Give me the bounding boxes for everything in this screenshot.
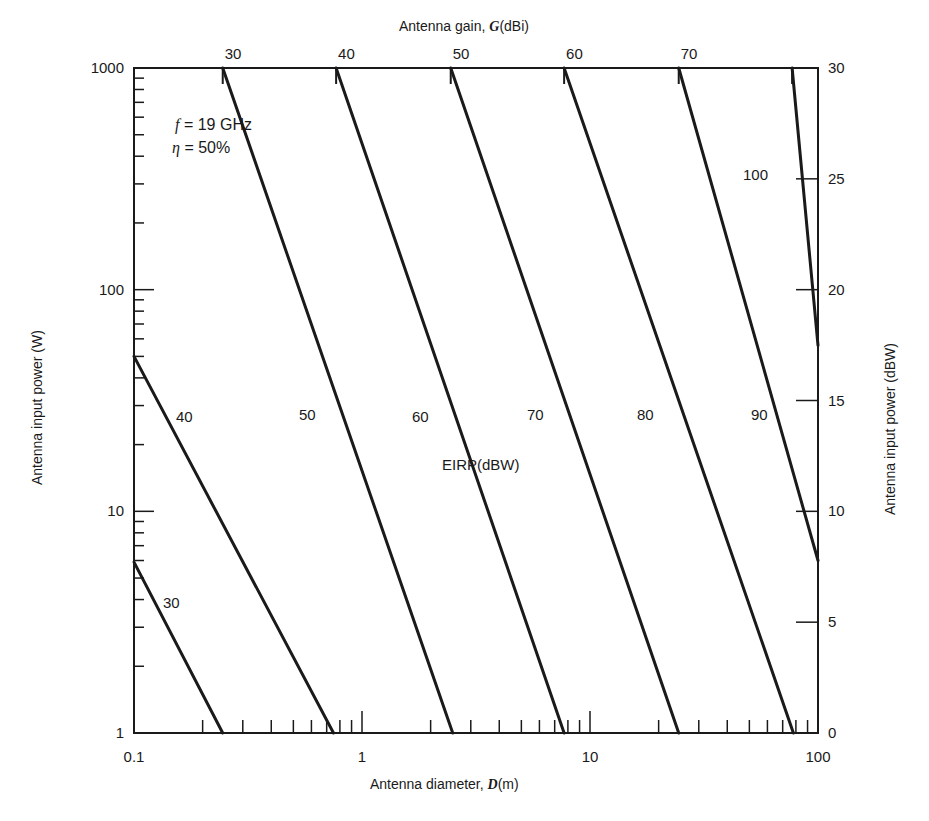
efficiency-annotation: η = 50%: [172, 139, 230, 157]
eirp-line-60: [336, 68, 564, 733]
bottom-axis-unit: (m): [498, 776, 519, 792]
x2-tick-label: 50: [453, 45, 470, 62]
frequency-annotation: f = 19 GHz: [175, 116, 252, 134]
top-axis-var: G: [489, 19, 499, 34]
eirp-line-100: [792, 68, 818, 345]
plot-frame: [134, 68, 818, 733]
x-tick-label: 100: [805, 748, 830, 765]
eirp-line-70: [451, 68, 679, 733]
eirp-line-label: 80: [637, 406, 654, 423]
x2-tick-label: 30: [225, 45, 242, 62]
efficiency-symbol: η: [172, 139, 180, 156]
y-tick-label: 1: [116, 724, 124, 741]
eirp-line-label: 30: [163, 594, 180, 611]
y2-tick-label: 30: [828, 59, 845, 76]
x-tick-label: 10: [582, 748, 599, 765]
x2-tick-label: 60: [566, 45, 583, 62]
y-tick-label: 100: [99, 281, 124, 298]
top-axis-title-prefix: Antenna gain,: [399, 18, 489, 34]
y-tick-label: 1000: [91, 59, 124, 76]
x-tick-label: 1: [358, 748, 366, 765]
eirp-line-30: [134, 562, 223, 733]
y2-tick-label: 5: [828, 613, 836, 630]
y2-tick-label: 10: [828, 502, 845, 519]
top-axis-title: Antenna gain, G(dBi): [399, 18, 529, 35]
x2-tick-label: 70: [681, 45, 698, 62]
bottom-axis-var: D: [488, 777, 498, 792]
top-axis-unit: (dBi): [499, 18, 529, 34]
x-tick-label: 0.1: [124, 748, 145, 765]
y2-tick-label: 0: [828, 724, 836, 741]
eirp-line-label: 50: [299, 406, 316, 423]
eirp-line-90: [679, 68, 818, 561]
eirp-line-50: [223, 68, 453, 733]
eirp-annotation: EIRP(dBW): [442, 456, 520, 473]
eirp-line-label: 40: [176, 408, 193, 425]
axis-ticks: [134, 78, 818, 733]
frequency-value: = 19 GHz: [184, 116, 252, 133]
y2-tick-label: 25: [828, 170, 845, 187]
y-tick-label: 10: [107, 502, 124, 519]
y2-tick-label: 15: [828, 392, 845, 409]
x2-tick-label: 40: [338, 45, 355, 62]
eirp-line-label: 100: [743, 166, 768, 183]
right-axis-title: Antenna input power (dBW): [882, 343, 898, 515]
frequency-symbol: f: [175, 116, 179, 133]
y2-tick-label: 20: [828, 281, 845, 298]
bottom-axis-title: Antenna diameter, D(m): [370, 776, 519, 793]
eirp-line-label: 90: [751, 406, 768, 423]
eirp-line-label: 60: [412, 408, 429, 425]
eirp-line-label: 70: [527, 406, 544, 423]
efficiency-value: = 50%: [184, 139, 230, 156]
eirp-lines: [134, 68, 818, 733]
left-axis-title: Antenna input power (W): [29, 330, 45, 485]
chart-canvas: [0, 0, 929, 821]
bottom-axis-title-prefix: Antenna diameter,: [370, 776, 488, 792]
